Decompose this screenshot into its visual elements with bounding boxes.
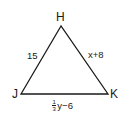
fraction-one-third: 1 3 xyxy=(52,99,56,112)
side-label-hk: x+8 xyxy=(88,50,104,60)
fraction-numerator: 1 xyxy=(52,99,56,106)
vertex-label-j: J xyxy=(12,88,18,100)
side-expression-jk: y−6 xyxy=(57,100,73,111)
side-label-hj: 15 xyxy=(27,51,38,61)
side-label-jk: 1 3 y−6 xyxy=(52,99,73,112)
vertex-label-h: H xyxy=(56,11,65,23)
vertex-label-k: K xyxy=(110,88,118,100)
fraction-denominator: 3 xyxy=(52,106,56,112)
